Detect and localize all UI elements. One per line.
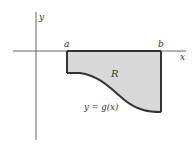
bound-a-label: a [64, 39, 69, 49]
x-axis-label: x [180, 52, 185, 62]
region-diagram: y x a b R y = g(x) [0, 0, 196, 149]
region-label: R [110, 68, 119, 79]
curve-label: y = g(x) [83, 102, 118, 112]
bound-b-label: b [158, 39, 164, 49]
y-axis-label: y [38, 12, 45, 22]
